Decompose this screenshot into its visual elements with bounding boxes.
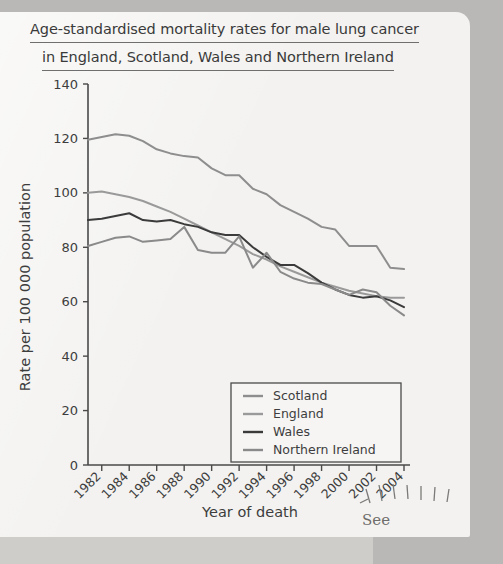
- series-lines: [88, 134, 404, 315]
- legend-label-scotland: Scotland: [273, 388, 327, 403]
- x-axis-tick-label: 1990: [181, 468, 214, 501]
- x-axis-tick-label: 1992: [208, 469, 241, 502]
- y-axis-tick-label: 140: [53, 77, 78, 92]
- chart-figure: Age-standardised mortality rates for mal…: [0, 12, 470, 537]
- y-axis-tick-label: 0: [70, 458, 78, 473]
- y-axis-tick-label: 100: [53, 185, 78, 200]
- legend-label-england: England: [273, 406, 324, 421]
- y-axis-tick-label: 20: [61, 403, 78, 418]
- y-axis-tick-label: 80: [61, 240, 78, 255]
- screenshot-root: Age-standardised mortality rates for mal…: [0, 0, 503, 564]
- chart-legend[interactable]: ScotlandEnglandWalesNorthern Ireland: [231, 383, 401, 462]
- x-axis-tick-label: 1982: [71, 469, 104, 502]
- x-axis-title: Year of death: [201, 504, 298, 520]
- x-axis-tick-label: 1998: [291, 468, 324, 501]
- page-bottom-edge: [0, 537, 373, 564]
- y-axis-tick-label: 40: [61, 349, 78, 364]
- y-axis-title: Rate per 100 000 population: [17, 183, 33, 391]
- x-axis-tick-label: 1986: [126, 468, 159, 501]
- x-axis-tick-label: 1996: [263, 468, 296, 501]
- line-chart-svg: 020406080100120140 198219841986198819901…: [0, 12, 470, 537]
- legend-label-wales: Wales: [273, 424, 310, 439]
- pencil-text: See: [362, 511, 390, 529]
- x-axis-tick-label: 1988: [153, 468, 186, 501]
- x-axis-tick-label: 1984: [98, 468, 131, 501]
- pencil-annotation: See: [346, 473, 466, 535]
- x-axis-tick-label: 1994: [236, 468, 269, 501]
- series-line-england: [88, 192, 404, 298]
- y-axis-tick-label: 120: [53, 131, 78, 146]
- y-axis: 020406080100120140: [53, 77, 88, 473]
- legend-label-northern-ireland: Northern Ireland: [273, 442, 376, 457]
- y-axis-tick-label: 60: [61, 294, 78, 309]
